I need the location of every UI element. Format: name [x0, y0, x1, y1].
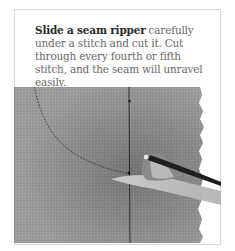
instruction-lead: Slide a seam ripper [35, 24, 145, 36]
seam-ripper-photo [14, 87, 221, 243]
instruction-caption: Slide a seam ripper carefully under a st… [35, 24, 210, 89]
